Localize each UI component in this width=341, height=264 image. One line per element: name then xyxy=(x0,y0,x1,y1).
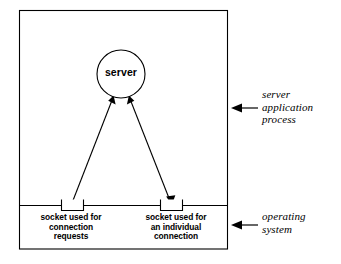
annotation-upper-line-2: application xyxy=(262,101,313,114)
connection-socket-caption: socket used for an individual connection xyxy=(124,213,228,242)
connection-socket-shape xyxy=(161,200,183,211)
listening-socket-shape xyxy=(62,200,84,211)
annotation-lower-line-1: operating xyxy=(262,210,306,223)
arrow-left-icon-lower xyxy=(231,221,242,230)
annotation-server-application-process: server application process xyxy=(262,88,313,126)
connection-socket-caption-line-3: connection xyxy=(124,232,228,242)
diagram-canvas: server socket used for connection reques… xyxy=(0,0,341,264)
annotation-lower-line-2: system xyxy=(262,223,306,236)
arrow-left-icon-upper xyxy=(231,104,242,113)
annotation-operating-system: operating system xyxy=(262,210,306,235)
server-node-label: server xyxy=(97,66,145,78)
listening-socket-caption: socket used for connection requests xyxy=(19,213,123,242)
annotation-upper-line-3: process xyxy=(262,113,313,126)
annotation-upper-line-1: server xyxy=(262,88,313,101)
listening-socket-caption-line-3: requests xyxy=(19,232,123,242)
